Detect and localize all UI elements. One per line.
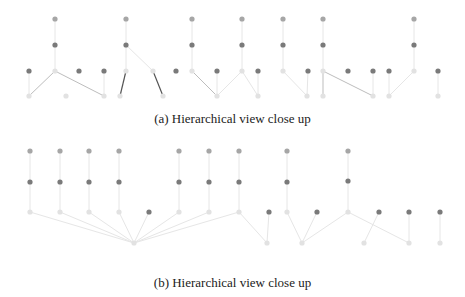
graph-node [320,16,325,21]
graph-node [146,209,151,214]
graph-edge [283,71,307,96]
graph-node [284,179,289,184]
graph-node [123,16,128,21]
graph-node [176,179,181,184]
graph-node [123,42,128,47]
graph-node [206,179,211,184]
graph-node [176,148,181,153]
graph-edge [30,212,134,243]
graph-node [236,148,241,153]
graph-node [386,68,391,73]
graph-node [345,68,350,73]
graph-edge [55,71,104,96]
graph-node [189,42,194,47]
graph-node [52,16,57,21]
graph-node [214,68,219,73]
graph-node [236,179,241,184]
graph-node [370,68,375,73]
graph-node [116,148,121,153]
graph-edge [348,212,409,243]
graph-edge [134,212,239,243]
graph-node [52,42,57,47]
graph-node [280,16,285,21]
graph-node [345,148,350,153]
graph-edge [29,71,55,96]
graph-node [406,209,411,214]
graph-node [299,240,304,245]
graph-node [361,240,366,245]
graph-node [370,93,375,98]
caption-b: (b) Hierarchical view close up [0,275,465,291]
graph-node [284,209,289,214]
graph-node [101,93,106,98]
graph-node [239,42,244,47]
graph-node [214,93,219,98]
graph-node [189,68,194,73]
graph-node [27,148,32,153]
graph-node [266,209,271,214]
graph-node [150,68,155,73]
graph-edge [323,71,373,96]
graph-node [255,68,260,73]
graph-node [437,240,442,245]
graph-edge [302,212,348,243]
graph-node [239,68,244,73]
graph-node [305,68,310,73]
graph-node [437,209,442,214]
graph-edge [153,71,163,96]
graph-node [63,93,68,98]
graph-node [27,179,32,184]
graph-edge [192,71,217,96]
graph-node [314,209,319,214]
graph-node [173,68,178,73]
graph-node [206,148,211,153]
graph-node [26,68,31,73]
graph-node [131,240,136,245]
graph-node [57,148,62,153]
graph-edge [287,212,302,243]
hierarchical-graph-b [0,130,465,260]
graph-node [264,240,269,245]
graph-node [123,68,128,73]
graph-node [320,42,325,47]
graph-edge [307,71,308,96]
graph-edge [242,71,258,96]
graph-node [176,209,181,214]
graph-edge [60,212,134,243]
graph-node [304,93,309,98]
graph-node [280,42,285,47]
graph-node [86,209,91,214]
graph-node [411,42,416,47]
graph-node [284,148,289,153]
graph-node [206,209,211,214]
graph-node [406,240,411,245]
graph-node [320,68,325,73]
graph-node [239,16,244,21]
graph-node [189,16,194,21]
graph-node [27,209,32,214]
panel-a-graph [0,0,465,108]
graph-edge [120,71,126,96]
graph-edge [217,71,242,96]
graph-node [101,68,106,73]
graph-node [435,68,440,73]
graph-node [411,68,416,73]
graph-node [57,179,62,184]
graph-node [52,68,57,73]
graph-node [345,178,350,183]
graph-node [280,68,285,73]
graph-node [86,179,91,184]
graph-node [116,209,121,214]
graph-node [255,93,260,98]
graph-node [76,68,81,73]
graph-node [116,179,121,184]
graph-edge [126,45,153,71]
graph-node [411,16,416,21]
graph-edge [239,212,267,243]
hierarchical-graph-a [0,0,465,108]
panel-b-graph [0,130,465,260]
graph-node [57,209,62,214]
graph-edge [267,212,269,243]
graph-node [376,209,381,214]
graph-node [117,93,122,98]
